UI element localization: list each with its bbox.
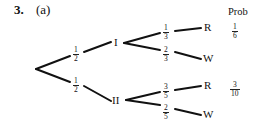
question-number: 3.: [14, 3, 24, 16]
question-part: (a): [36, 3, 50, 16]
outcome-I-R: R: [204, 22, 211, 33]
branch-root-to-II-2: [84, 86, 111, 101]
branch-root-to-II: [36, 69, 70, 82]
branch-root-to-I: [36, 56, 70, 69]
node-I: I: [114, 37, 118, 48]
tree-branches: [0, 0, 259, 123]
branch-II-W-2: [175, 109, 201, 115]
outcome-I-W: W: [203, 53, 213, 64]
branch-prob-II-W: 2 5: [163, 104, 169, 120]
branch-I-W-2: [175, 52, 201, 59]
branch-prob-I: 1 2: [73, 46, 79, 62]
branch-root-to-I-2: [84, 42, 111, 52]
branch-prob-I-W: 2 3: [163, 46, 169, 62]
branch-I-W-1: [124, 43, 160, 50]
prob-header: Prob: [228, 7, 248, 18]
branch-II-R-1: [126, 92, 160, 100]
branch-I-R-1: [124, 33, 160, 43]
outcome-II-W: W: [203, 109, 213, 120]
branch-prob-II: 1 2: [73, 77, 79, 93]
prob-II-R: 3 10: [230, 81, 240, 97]
prob-I-R: 1 6: [232, 23, 238, 39]
branch-I-R-2: [175, 28, 201, 31]
branch-prob-I-R: 1 3: [163, 24, 169, 40]
branch-prob-II-R: 3 5: [163, 83, 169, 99]
node-II: II: [112, 95, 119, 106]
outcome-II-R: R: [204, 80, 211, 91]
branch-II-W-1: [126, 100, 160, 105]
branch-II-R-2: [175, 86, 201, 90]
